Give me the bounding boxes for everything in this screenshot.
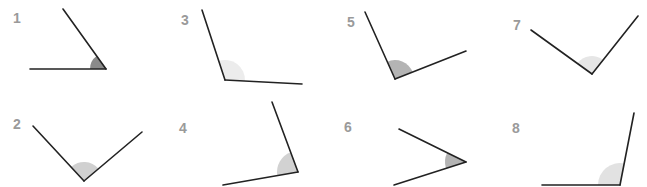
angle-arm xyxy=(202,10,225,80)
angle-figure: 3 xyxy=(181,10,302,84)
angle-arm xyxy=(223,172,298,185)
angles-diagram: 13572468 xyxy=(0,0,647,187)
angle-arm xyxy=(592,16,638,74)
angle-figure: 1 xyxy=(13,9,106,69)
angle-number-label: 3 xyxy=(181,12,189,28)
angle-arm xyxy=(365,12,395,79)
angle-arm xyxy=(531,30,592,74)
angle-arm xyxy=(394,162,466,185)
angle-arm xyxy=(620,113,634,185)
angle-arm xyxy=(63,9,106,69)
angle-arm xyxy=(399,129,466,162)
angle-number-label: 6 xyxy=(344,119,352,135)
angle-figure: 2 xyxy=(13,116,142,181)
angle-figure: 5 xyxy=(347,12,466,79)
angle-figure: 4 xyxy=(179,102,298,185)
angles-canvas: 13572468 xyxy=(0,0,647,187)
angle-arm xyxy=(84,132,142,181)
angle-number-label: 1 xyxy=(13,10,21,26)
angle-arm xyxy=(33,126,84,181)
angle-number-label: 4 xyxy=(179,120,187,136)
angle-number-label: 2 xyxy=(13,116,21,132)
angle-number-label: 8 xyxy=(512,120,520,136)
angle-figure: 7 xyxy=(513,16,638,74)
angle-arm xyxy=(225,80,302,84)
angle-figure: 8 xyxy=(512,113,634,185)
angle-number-label: 7 xyxy=(513,17,521,33)
angle-figure: 6 xyxy=(344,119,466,185)
angle-number-label: 5 xyxy=(347,14,355,30)
